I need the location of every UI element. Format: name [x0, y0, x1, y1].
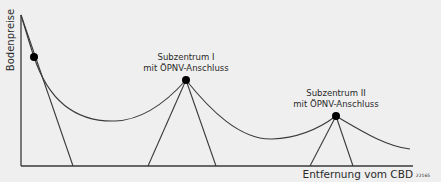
subzentrum-2-label-line2: mit ÖPNV-Anschluss — [293, 99, 379, 109]
subzentrum-1-dot — [182, 76, 190, 84]
subzentrum-1-right-line — [186, 80, 216, 166]
cbd-gradient-line — [21, 15, 73, 166]
cbd-dot — [30, 53, 38, 61]
bid-rent-diagram: Bodenpreise Subzentrum I mit ÖPNV-Anschl… — [0, 0, 448, 188]
bid-rent-curve — [21, 15, 410, 149]
subzentrum-2-right-line — [336, 116, 353, 166]
subzentrum-1-label-line1: Subzentrum I — [158, 52, 215, 62]
subzentrum-1-left-line — [148, 80, 186, 166]
subzentrum-2-label-line1: Subzentrum II — [306, 88, 365, 98]
figure-id: 22165 — [416, 173, 430, 178]
subzentrum-2-dot — [332, 112, 340, 120]
subzentrum-1-label-line2: mit ÖPNV-Anschluss — [143, 63, 229, 73]
x-axis-label: Entfernung vom CBD — [303, 168, 414, 180]
subzentrum-2-left-line — [310, 116, 336, 166]
y-axis-label: Bodenpreise — [5, 9, 16, 71]
